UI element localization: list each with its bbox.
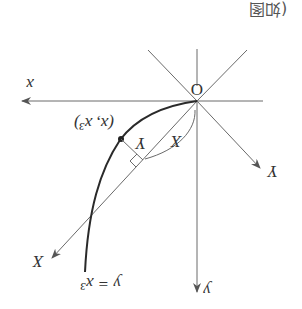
arc-X-length bbox=[145, 110, 195, 159]
caption-fragment: (如图 bbox=[249, 0, 287, 19]
x-axis-label: x bbox=[26, 75, 35, 94]
curve-label: y = x³ bbox=[80, 274, 123, 293]
rotation-of-axes-diagram: (如图 O x y Y X (x, x³) y = x³ X Y bbox=[0, 0, 302, 309]
segment-Y-label: Y bbox=[135, 134, 146, 153]
point-label: (x, x³) bbox=[74, 114, 114, 133]
y-axis-label: y bbox=[203, 281, 213, 300]
origin-label: O bbox=[191, 80, 203, 99]
diagonal-line-upper-right bbox=[197, 50, 247, 101]
rotated-y-axis-label: Y bbox=[267, 162, 278, 181]
rotated-y-axis bbox=[197, 101, 260, 168]
right-angle-mark bbox=[130, 154, 137, 167]
rotated-x-axis-label: X bbox=[32, 252, 44, 271]
segment-X-label: X bbox=[170, 132, 182, 151]
rotated-x-axis bbox=[52, 101, 197, 258]
diagonal-line-upper-left bbox=[148, 50, 197, 101]
